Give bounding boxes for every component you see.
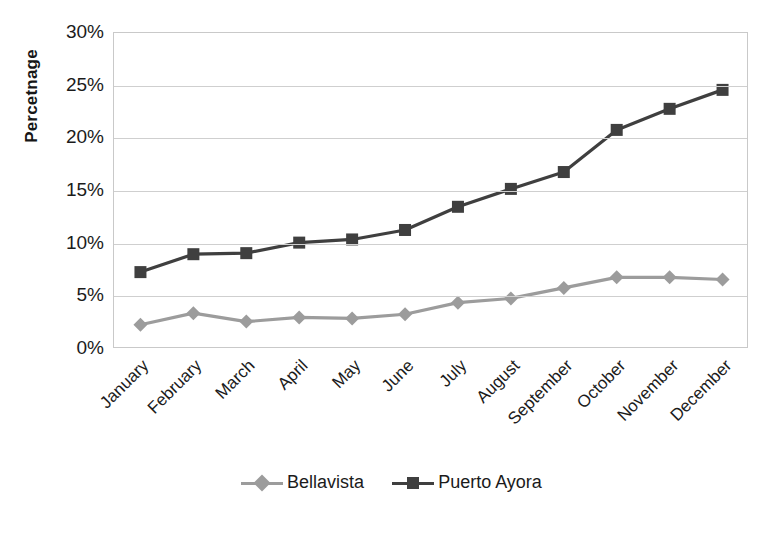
x-axis-tick-label: December	[637, 356, 736, 455]
x-axis-tick-label: September	[478, 356, 577, 455]
data-point-marker	[716, 272, 730, 286]
x-axis-tick-label-text: May	[266, 356, 365, 455]
x-axis-tick-label-text: December	[637, 356, 736, 455]
legend-item-puerto-ayora[interactable]: Puerto Ayora	[392, 472, 542, 493]
data-point-marker	[504, 291, 518, 305]
x-axis-tick-label-text: July	[372, 356, 471, 455]
x-axis-tick-label-text: June	[319, 356, 418, 455]
x-axis-tick-label: July	[372, 356, 471, 455]
series-line	[140, 277, 722, 324]
series-puerto-ayora	[134, 84, 728, 278]
series-bellavista	[133, 270, 729, 331]
gridline	[114, 138, 747, 139]
data-point-marker	[239, 315, 253, 329]
gridline	[114, 244, 747, 245]
y-axis-tick-label: 30%	[48, 22, 104, 41]
series-line	[140, 90, 722, 272]
x-axis-tick-labels: JanuaryFebruaryMarchAprilMayJuneJulyAugu…	[113, 348, 748, 468]
data-point-marker	[240, 247, 252, 259]
data-point-marker	[663, 270, 677, 284]
data-point-marker	[345, 311, 359, 325]
legend-item-label: Bellavista	[287, 472, 364, 493]
x-axis-tick-label: November	[584, 356, 683, 455]
x-axis-tick-label-text: November	[584, 356, 683, 455]
legend-swatch-icon	[241, 475, 283, 491]
legend-item-label: Puerto Ayora	[438, 472, 542, 493]
x-axis-tick-label: October	[531, 356, 630, 455]
y-axis-tick-label: 5%	[48, 285, 104, 304]
data-point-marker	[134, 266, 146, 278]
data-point-marker	[610, 270, 624, 284]
x-axis-tick-label-text: August	[425, 356, 524, 455]
data-point-marker	[452, 201, 464, 213]
data-point-marker	[399, 224, 411, 236]
legend-swatch-icon	[392, 475, 434, 491]
x-axis-tick-label: June	[319, 356, 418, 455]
data-point-marker	[505, 183, 517, 195]
gridline	[114, 296, 747, 297]
data-point-marker	[292, 310, 306, 324]
y-axis-tick-label: 25%	[48, 75, 104, 94]
plot-area	[113, 32, 748, 348]
x-axis-tick-label: August	[425, 356, 524, 455]
y-axis-tick-label: 15%	[48, 180, 104, 199]
y-axis-tick-labels: 0%5%10%15%20%25%30%	[46, 0, 104, 536]
data-point-marker	[611, 124, 623, 136]
y-axis-tick-label: 20%	[48, 127, 104, 146]
data-point-marker	[187, 248, 199, 260]
data-point-marker	[398, 307, 412, 321]
line-chart: Percetnage 0%5%10%15%20%25%30% JanuaryFe…	[0, 0, 783, 536]
y-axis-title: Percetnage	[22, 16, 42, 176]
x-axis-tick-label: May	[266, 356, 365, 455]
gridline	[114, 86, 747, 87]
data-point-marker	[557, 281, 571, 295]
data-point-marker	[558, 166, 570, 178]
data-point-marker	[451, 296, 465, 310]
x-axis-tick-label-text: September	[478, 356, 577, 455]
chart-legend: BellavistaPuerto Ayora	[0, 472, 783, 493]
y-axis-tick-label: 10%	[48, 233, 104, 252]
data-point-marker	[664, 103, 676, 115]
data-point-marker	[133, 318, 147, 332]
y-axis-tick-label: 0%	[48, 338, 104, 357]
legend-item-bellavista[interactable]: Bellavista	[241, 472, 364, 493]
x-axis-tick-label-text: October	[531, 356, 630, 455]
data-point-marker	[293, 237, 305, 249]
data-point-marker	[186, 306, 200, 320]
gridline	[114, 191, 747, 192]
